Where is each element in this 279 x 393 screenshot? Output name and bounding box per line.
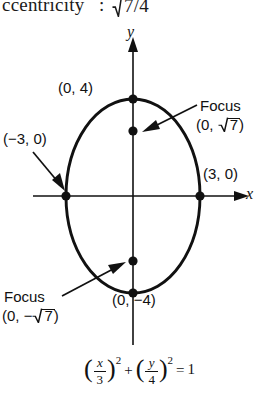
radical-icon: 7 bbox=[218, 117, 239, 132]
radical-tick-icon bbox=[32, 308, 43, 323]
label-focus-lower-word: Focus bbox=[4, 289, 45, 304]
fraction-x-denominator: 3 bbox=[94, 372, 107, 387]
fraction-x-numerator: x bbox=[94, 356, 107, 372]
point-focus-lower bbox=[128, 256, 137, 265]
leader-focus-lower-arrowhead bbox=[108, 262, 126, 274]
fraction-x-over-3: x3 bbox=[94, 356, 107, 386]
ellipse-figure: ccentricity : 7/4 bbox=[0, 0, 279, 393]
leader-focus-upper-arrowhead bbox=[142, 120, 160, 132]
label-focus-lower-coord: (0, −7) bbox=[2, 308, 59, 323]
point-focus-upper bbox=[128, 126, 137, 135]
leader-focus-upper bbox=[142, 105, 197, 132]
ellipse-diagram bbox=[0, 0, 279, 393]
radical-tick-icon bbox=[218, 117, 229, 132]
equation-result: 1 bbox=[188, 361, 196, 377]
focus-lower-suffix: ) bbox=[54, 307, 59, 324]
focus-upper-suffix: ) bbox=[239, 116, 244, 133]
focus-upper-radicand: 7 bbox=[229, 117, 239, 132]
equation-plus: + bbox=[124, 362, 132, 378]
fraction-y-over-4: y4 bbox=[145, 356, 158, 386]
point-top-vertex bbox=[128, 94, 137, 103]
focus-lower-radicand: 7 bbox=[43, 308, 53, 323]
radical-icon: 7 bbox=[32, 308, 53, 323]
leader-left-vertex bbox=[33, 152, 65, 191]
point-right-vertex bbox=[195, 191, 204, 200]
equation-equals: = bbox=[176, 362, 184, 378]
label-bottom-vertex: (0, −4) bbox=[112, 292, 156, 307]
label-left-vertex: (−3, 0) bbox=[3, 131, 47, 146]
point-left-vertex bbox=[61, 191, 70, 200]
fraction-y-numerator: y bbox=[145, 356, 158, 372]
radical-bar bbox=[42, 309, 54, 310]
focus-upper-prefix: (0, bbox=[196, 116, 218, 133]
label-focus-upper-word: Focus bbox=[200, 98, 241, 113]
y-axis-label: y bbox=[127, 24, 134, 40]
equation-open-paren-y: ( bbox=[136, 354, 145, 383]
ellipse-equation: (x3)2+(y4)2=1 bbox=[0, 355, 279, 385]
label-right-vertex: (3, 0) bbox=[203, 166, 238, 181]
leader-left-vertex-arrowhead bbox=[52, 173, 65, 191]
equation-exponent-x: 2 bbox=[116, 354, 122, 366]
equation-close-paren-x: ) bbox=[107, 354, 116, 383]
label-top-vertex: (0, 4) bbox=[58, 80, 93, 95]
radical-bar bbox=[228, 118, 240, 119]
focus-lower-prefix: (0, − bbox=[2, 307, 32, 324]
x-axis-label: x bbox=[246, 186, 253, 202]
equation-exponent-y: 2 bbox=[168, 354, 174, 366]
equation-open-paren-x: ( bbox=[84, 354, 93, 383]
equation-close-paren-y: ) bbox=[159, 354, 168, 383]
fraction-y-denominator: 4 bbox=[145, 372, 158, 387]
label-focus-upper-coord: (0, 7) bbox=[196, 117, 244, 132]
